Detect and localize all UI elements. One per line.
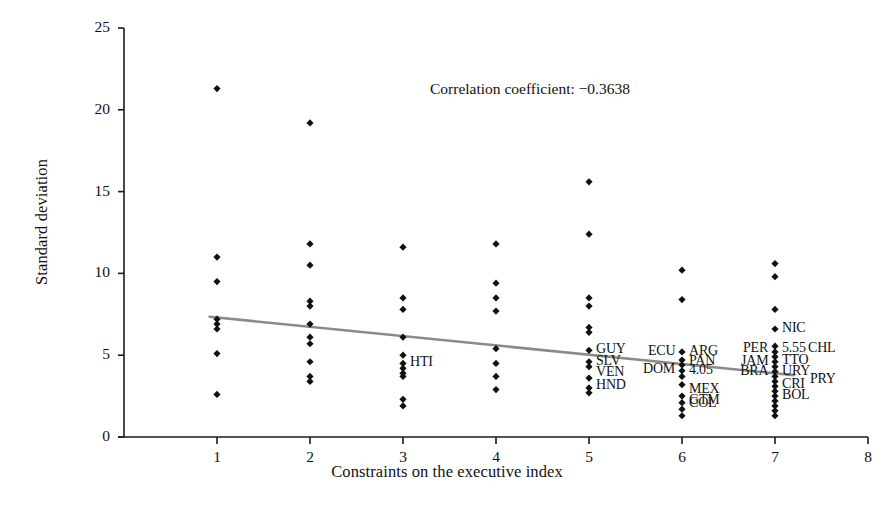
data-point-label: JAM <box>741 353 768 369</box>
correlation-annotation: Correlation coefficient: −0.3638 <box>430 80 630 98</box>
data-point <box>213 391 220 398</box>
data-point <box>492 373 499 380</box>
data-point <box>678 267 685 274</box>
data-point <box>492 386 499 393</box>
data-point <box>213 278 220 285</box>
data-point <box>585 389 592 396</box>
data-point-label: HTI <box>410 354 433 370</box>
data-point <box>306 334 313 341</box>
plot-canvas <box>0 0 894 505</box>
data-point <box>585 178 592 185</box>
data-point <box>306 340 313 347</box>
data-point <box>771 306 778 313</box>
data-point <box>492 240 499 247</box>
data-point-label: CHL <box>808 340 835 356</box>
data-point-label: HND <box>596 377 626 393</box>
data-point <box>492 360 499 367</box>
y-tick-label: 0 <box>76 427 110 445</box>
y-axis-title: Standard deviation <box>32 122 52 322</box>
x-tick-label: 6 <box>667 448 697 466</box>
data-point-label: PRY <box>810 371 836 387</box>
data-point <box>306 119 313 126</box>
y-tick-label: 10 <box>76 263 110 281</box>
data-point <box>306 303 313 310</box>
data-point <box>492 280 499 287</box>
data-point <box>213 85 220 92</box>
x-tick-label: 1 <box>202 448 232 466</box>
x-tick-label: 8 <box>853 448 883 466</box>
data-point <box>678 412 685 419</box>
data-point <box>771 325 778 332</box>
y-tick-label: 20 <box>76 100 110 118</box>
data-point <box>678 381 685 388</box>
data-point <box>399 352 406 359</box>
data-point <box>492 307 499 314</box>
y-tick-label: 15 <box>76 182 110 200</box>
data-point-label: ECU <box>648 343 675 359</box>
y-tick-label: 25 <box>76 18 110 36</box>
data-point <box>771 260 778 267</box>
data-point <box>399 402 406 409</box>
data-point <box>585 303 592 310</box>
x-tick-label: 7 <box>760 448 790 466</box>
data-point <box>306 378 313 385</box>
data-point <box>585 363 592 370</box>
data-point-label: DOM <box>643 361 675 377</box>
data-point <box>678 406 685 413</box>
x-tick-label: 5 <box>574 448 604 466</box>
data-point <box>585 329 592 336</box>
x-tick-label: 2 <box>295 448 325 466</box>
data-point-label: 4.05 <box>689 362 713 378</box>
data-point <box>399 396 406 403</box>
scatter-plot-figure: Standard deviation Constraints on the ex… <box>0 0 894 505</box>
data-point <box>678 373 685 380</box>
data-point <box>306 358 313 365</box>
data-point <box>399 306 406 313</box>
data-point <box>678 296 685 303</box>
data-point <box>306 262 313 269</box>
data-point-label: NIC <box>782 320 806 336</box>
data-point <box>399 294 406 301</box>
data-point <box>585 347 592 354</box>
y-tick-label: 5 <box>76 345 110 363</box>
data-point <box>213 350 220 357</box>
data-point <box>213 253 220 260</box>
data-point-label: BOL <box>782 387 809 403</box>
data-point-label: COL <box>689 395 716 411</box>
data-point <box>678 399 685 406</box>
data-point <box>771 412 778 419</box>
data-point <box>306 240 313 247</box>
data-point <box>678 348 685 355</box>
x-tick-label: 3 <box>388 448 418 466</box>
data-point <box>399 244 406 251</box>
data-point <box>492 294 499 301</box>
data-point <box>771 273 778 280</box>
data-point <box>213 325 220 332</box>
data-point <box>585 375 592 382</box>
data-point <box>585 231 592 238</box>
data-point <box>678 393 685 400</box>
data-point <box>585 294 592 301</box>
x-tick-label: 4 <box>481 448 511 466</box>
